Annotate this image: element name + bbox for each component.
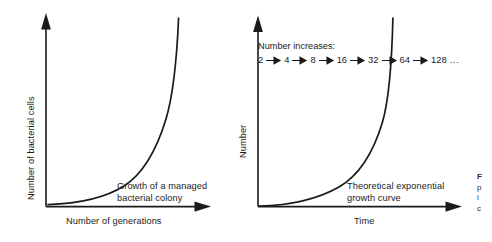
- chart-managed-bacterial-colony: Number of bacterial cells Number of gene…: [0, 0, 240, 242]
- caption-fragment-line-4: c: [477, 204, 492, 215]
- left-x-axis-label: Number of generations: [66, 216, 162, 228]
- sequence-annotation: Number increases: 2 4 8 16 32: [258, 40, 459, 66]
- right-arrow-icon: [382, 55, 397, 64]
- sequence-terms-row: 2 4 8 16 32: [258, 53, 459, 66]
- sequence-trailing-ellipsis: ...: [450, 53, 460, 66]
- right-arrow-icon: [319, 55, 334, 64]
- caption-fragment-line-3: i: [477, 193, 492, 204]
- right-curve-annotation: Theoretical exponential growth curve: [347, 181, 471, 204]
- exponential-growth-figure: Number of bacterial cells Number of gene…: [0, 0, 492, 242]
- right-arrow-icon: [413, 55, 428, 64]
- chart-theoretical-exponential-growth: Number Time Theoretical exponential grow…: [225, 0, 492, 242]
- caption-fragment-clipped: F p i c: [477, 172, 492, 216]
- left-curve-annotation: Growth of a managed bacterial colony: [117, 181, 235, 204]
- right-y-axis-label: Number: [238, 125, 250, 158]
- left-growth-curve: [48, 18, 179, 205]
- right-chart-plot: [225, 0, 492, 242]
- sequence-term-7: 128: [431, 53, 447, 66]
- right-x-axis-label: Time: [354, 216, 374, 228]
- sequence-term-2: 4: [284, 53, 289, 66]
- left-y-axis-arrowhead: [41, 13, 51, 30]
- left-y-axis-label: Number of bacterial cells: [26, 96, 38, 200]
- sequence-title: Number increases:: [258, 40, 459, 52]
- right-arrow-icon: [266, 55, 281, 64]
- caption-fragment-line-2: p: [477, 183, 492, 194]
- sequence-term-4: 16: [337, 53, 347, 66]
- right-arrow-icon: [292, 55, 307, 64]
- sequence-term-1: 2: [258, 53, 263, 66]
- right-arrow-icon: [350, 55, 365, 64]
- right-y-axis-arrowhead: [253, 16, 263, 33]
- sequence-term-6: 64: [400, 53, 410, 66]
- sequence-term-3: 8: [310, 53, 315, 66]
- caption-fragment-line-1: F: [477, 172, 492, 183]
- sequence-term-5: 32: [368, 53, 378, 66]
